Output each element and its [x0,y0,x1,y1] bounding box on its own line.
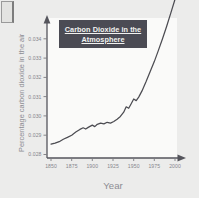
x-tick-label: 1925 [107,163,119,169]
x-tick-label: 1900 [86,163,98,169]
y-tick-label: 0.029 [28,132,41,138]
x-axis-label: Year [103,180,123,191]
chart-figure: 0.034 0.033 0.032 0.031 0.030 0.029 0.02… [0,0,199,198]
y-tick-label: 0.032 [28,74,41,80]
y-tick-labels: 0.034 0.033 0.032 0.031 0.030 0.029 0.02… [28,36,41,158]
x-tick-label: 1975 [148,163,160,169]
chart-title-box: Carbon Dioxide in the Atmosphere [59,20,147,48]
x-tick-label: 1950 [128,163,140,169]
x-tick-label: 1875 [66,163,78,169]
y-axis-label: Percentage carbon dioxide in the air [17,33,26,152]
y-tick-label: 0.033 [28,55,41,61]
y-tick-label: 0.030 [28,113,41,119]
y-tick-label: 0.034 [28,36,41,42]
chart-title-line-2: Atmosphere [59,35,147,45]
x-tick-label: 2000 [169,163,181,169]
x-axis-arrow-icon [178,155,187,162]
x-tick-label: 1850 [45,163,57,169]
x-tick-labels: 1850 1875 1900 1925 1950 1975 2000 [45,163,181,169]
y-tick-label: 0.028 [28,151,41,157]
y-tick-label: 0.031 [28,94,41,100]
chart-title-line-1: Carbon Dioxide in the [59,25,147,35]
